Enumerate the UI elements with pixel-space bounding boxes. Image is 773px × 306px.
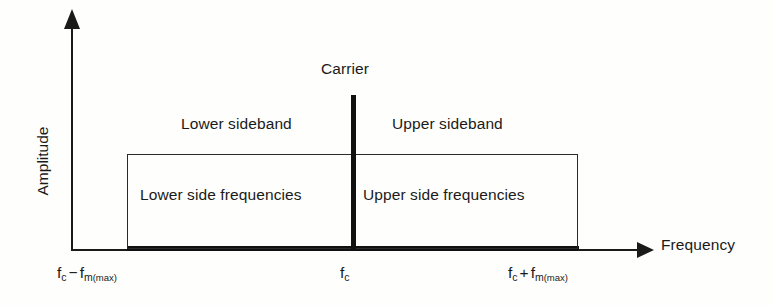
lower-sideband-label: Lower sideband bbox=[181, 115, 292, 133]
lower-side-frequencies-label: Lower side frequencies bbox=[140, 186, 302, 204]
x-axis-line-right bbox=[578, 249, 640, 251]
tick-subscript: c bbox=[344, 271, 349, 283]
x-axis-label: Frequency bbox=[661, 236, 735, 254]
tick-operator: − bbox=[67, 264, 80, 281]
upper-side-frequencies-label: Upper side frequencies bbox=[363, 186, 525, 204]
upper-sideband-label: Upper sideband bbox=[392, 115, 503, 133]
tick-term-subscript: m(max) bbox=[84, 271, 117, 283]
tick-term-paren: (max) bbox=[544, 272, 568, 283]
tick-term-sub-letter: m bbox=[535, 271, 544, 283]
tick-term-subscript: m(max) bbox=[535, 271, 568, 283]
tick-term-paren: (max) bbox=[93, 272, 117, 283]
arrow-up-icon bbox=[64, 9, 80, 29]
carrier-bar bbox=[351, 95, 356, 251]
arrow-right-icon bbox=[637, 242, 654, 258]
x-axis-line-left bbox=[71, 249, 129, 251]
tick-label-lower-limit: fc−fm(max) bbox=[57, 264, 117, 283]
y-axis-label: Amplitude bbox=[34, 101, 52, 221]
tick-term-sub-letter: m bbox=[84, 271, 93, 283]
tick-label-carrier-freq: fc bbox=[340, 264, 350, 283]
tick-label-upper-limit: fc+fm(max) bbox=[508, 264, 568, 283]
tick-operator: + bbox=[518, 264, 531, 281]
am-spectrum-figure: Amplitude Frequency Carrier Lower sideba… bbox=[0, 0, 773, 306]
tick-subscript: c bbox=[61, 271, 66, 283]
y-axis-line bbox=[71, 22, 73, 251]
tick-subscript: c bbox=[512, 271, 517, 283]
carrier-label: Carrier bbox=[321, 60, 369, 78]
